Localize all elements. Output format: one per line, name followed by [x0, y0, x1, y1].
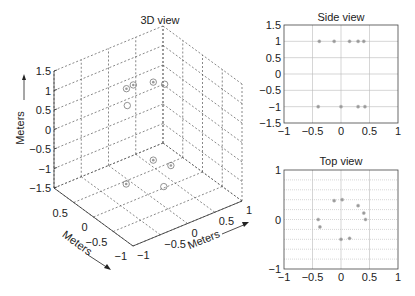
data-point — [333, 40, 336, 43]
z-tick-label: −1 — [38, 163, 51, 175]
x-tick-label: −0.5 — [302, 271, 324, 283]
x-tick-label: 0.5 — [362, 271, 377, 283]
y-tick-label: 0 — [275, 214, 281, 226]
x-tick-label: 1 — [246, 204, 252, 216]
z-tick-label: 1.5 — [36, 65, 51, 77]
z-tick-label: 0.5 — [36, 104, 51, 116]
y-tick-label: −1 — [114, 250, 127, 262]
figure: −1.5−1−0.500.511.5−1−0.500.5−1−0.500.51 … — [0, 0, 415, 296]
data-point — [124, 102, 130, 108]
plot-side-view: −1−0.500.511.510.50−0.5−1−1.5 — [259, 19, 401, 137]
plot-top-view: −1−0.500.5110−1 — [268, 164, 401, 283]
y-tick-label: 1 — [275, 164, 281, 176]
x-tick-label: 0 — [338, 125, 344, 137]
y-tick-label: 1.5 — [266, 19, 281, 31]
data-point — [333, 199, 336, 202]
data-point — [357, 105, 360, 108]
data-point — [348, 237, 351, 240]
data-point — [339, 238, 342, 241]
x-tick-label: −1 — [137, 249, 150, 261]
y-axis-arrow-icon — [88, 255, 111, 270]
plot-3d-view: −1.5−1−0.500.511.5−1−0.500.5−1−0.500.51 — [29, 26, 252, 262]
title-side-view: Side view — [317, 11, 364, 23]
data-point — [317, 218, 320, 221]
z-axis-arrow-icon — [22, 74, 26, 100]
z-tick-label: 0 — [45, 124, 51, 136]
x-tick-label: 0.5 — [362, 125, 377, 137]
x-tick-label: −0.5 — [164, 238, 186, 250]
x-tick-label: 0.5 — [219, 215, 234, 227]
z-tick-label: 1 — [45, 85, 51, 97]
y-tick-label: −1 — [268, 263, 281, 275]
z-tick-label: −0.5 — [29, 143, 51, 155]
data-point — [161, 183, 167, 189]
y-tick-label: −1 — [268, 101, 281, 113]
data-point — [317, 105, 320, 108]
x-tick-label: 1 — [395, 125, 401, 137]
x-tick-label: 1 — [395, 271, 401, 283]
data-point — [364, 218, 367, 221]
y-tick-label: −0.5 — [259, 84, 281, 96]
data-point — [357, 204, 360, 207]
y-tick-label: 0 — [275, 68, 281, 80]
title-top-view: Top view — [320, 155, 363, 167]
data-point — [339, 105, 342, 108]
data-point — [341, 198, 344, 201]
data-point — [362, 211, 365, 214]
y-tick-label: 0.5 — [52, 207, 67, 219]
data-point — [348, 40, 351, 43]
y-tick-label: 0 — [81, 221, 87, 233]
data-point — [318, 40, 321, 43]
y-tick-label: −1.5 — [259, 117, 281, 129]
y-tick-label: 0.5 — [266, 52, 281, 64]
z-tick-label: −1.5 — [29, 182, 51, 194]
x-tick-label: −0.5 — [302, 125, 324, 137]
data-point — [161, 81, 167, 87]
data-point — [357, 40, 360, 43]
y-tick-label: 1 — [275, 35, 281, 47]
data-point — [363, 105, 366, 108]
data-point — [362, 40, 365, 43]
x-tick-label: 0 — [338, 271, 344, 283]
title-3d-view: 3D view — [140, 14, 179, 26]
data-point — [318, 225, 321, 228]
z-axis-label: Meters — [14, 111, 26, 145]
